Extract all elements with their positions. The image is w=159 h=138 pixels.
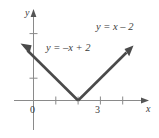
right-branch-line [78, 53, 126, 101]
y-axis-arrowhead [31, 9, 37, 17]
left-branch-line [28, 51, 79, 101]
y-axis-label: y [25, 8, 29, 18]
right-branch-equation-label: y = x – 2 [96, 22, 133, 33]
x-tick-label-3: 3 [95, 105, 100, 115]
x-tick-label-0: 0 [30, 105, 35, 115]
left-branch-equation-label: y = –x + 2 [46, 43, 91, 54]
graph-figure: y = –x + 2 y = x – 2 y x 0 3 [0, 0, 159, 138]
x-axis-label: x [146, 104, 150, 114]
coordinate-plane-svg [0, 0, 159, 138]
